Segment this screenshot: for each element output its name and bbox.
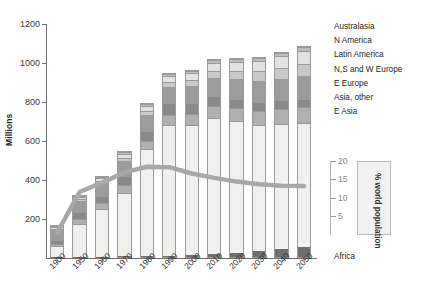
chart-container: Millions 20040060080010001200 1900195019… [0,0,422,304]
secondary-axis-tick-mark [331,198,336,199]
secondary-axis-tick-label: 10 [338,193,347,203]
secondary-axis-tick-label: 5 [338,211,343,221]
legend-item-australasia: Australasia [334,22,375,31]
secondary-axis-tick-mark [331,216,336,217]
legend-item-e-europe: E Europe [334,79,368,88]
legend-item-asia-other: Asia, other [334,93,373,102]
legend-item-e-asia: E Asia [334,107,357,116]
secondary-axis-tick-label: 20 [338,156,347,166]
legend-item-n-america: N America [334,36,372,45]
trend-line-path [57,167,304,233]
secondary-axis-tick-mark [331,161,336,162]
legend-item-latin-america: Latin America [334,50,384,59]
legend-item-n-s-and-w-europe: N,S and W Europe [334,65,402,74]
secondary-axis-tick-mark [331,179,336,180]
secondary-axis-tick-label: 15 [338,174,347,184]
secondary-axis-title: % world population [373,173,382,249]
legend-item-africa: Africa [334,252,355,261]
